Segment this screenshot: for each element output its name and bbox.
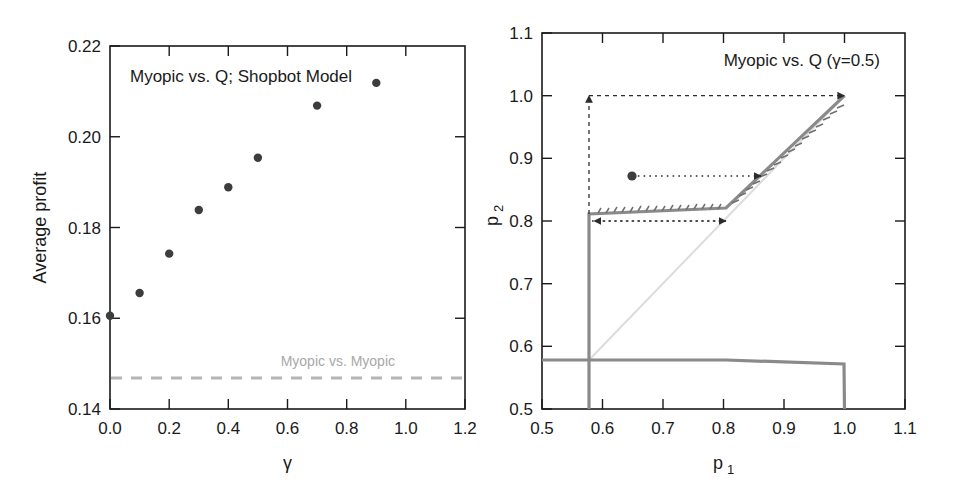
left-ytick-2: 0.18 bbox=[68, 219, 101, 238]
right-ytick-0: 0.5 bbox=[509, 400, 533, 419]
left-xtick-6: 1.2 bbox=[453, 419, 477, 438]
left-xtick-2: 0.4 bbox=[216, 419, 240, 438]
figure-container: 0.14 0.16 0.18 0.20 0.22 0.0 bbox=[0, 0, 959, 489]
right-y-axis-label-base: p bbox=[482, 216, 502, 226]
right-xtick-1: 0.6 bbox=[591, 419, 615, 438]
right-ytick-5: 1.0 bbox=[509, 87, 533, 106]
left-scatter-series bbox=[106, 79, 381, 320]
data-point bbox=[372, 79, 380, 87]
right-plot-title: Myopic vs. Q (γ=0.5) bbox=[724, 51, 880, 70]
data-point bbox=[313, 101, 321, 109]
right-ytick-2: 0.7 bbox=[509, 275, 533, 294]
left-ytick-3: 0.20 bbox=[68, 128, 101, 147]
initial-condition-point bbox=[627, 171, 636, 180]
left-ytick-1: 0.16 bbox=[68, 309, 101, 328]
left-xtick-1: 0.2 bbox=[157, 419, 181, 438]
right-ytick-6: 1.1 bbox=[509, 24, 533, 43]
data-point bbox=[195, 206, 203, 214]
left-ytick-0: 0.14 bbox=[68, 400, 101, 419]
right-xtick-2: 0.7 bbox=[651, 419, 675, 438]
right-xtick-6: 1.1 bbox=[893, 419, 917, 438]
right-xtick-0: 0.5 bbox=[530, 419, 554, 438]
right-x-axis-label-base: p bbox=[713, 453, 723, 473]
left-plot-svg: 0.14 0.16 0.18 0.20 0.22 0.0 bbox=[0, 0, 480, 489]
data-point bbox=[165, 249, 173, 257]
reaction-curve-player-1 bbox=[542, 360, 845, 409]
right-ytick-1: 0.6 bbox=[509, 337, 533, 356]
data-point bbox=[224, 183, 232, 191]
data-point bbox=[106, 312, 114, 320]
left-x-axis-label: γ bbox=[283, 453, 292, 473]
left-xtick-5: 1.0 bbox=[394, 419, 418, 438]
left-xtick-0: 0.0 bbox=[98, 419, 122, 438]
right-xtick-5: 1.0 bbox=[833, 419, 857, 438]
right-xtick-4: 0.9 bbox=[772, 419, 796, 438]
reaction-curve-arrow-markers bbox=[598, 105, 844, 213]
data-point bbox=[254, 154, 262, 162]
diagonal-reference-line bbox=[589, 96, 845, 360]
left-xtick-4: 0.8 bbox=[335, 419, 359, 438]
right-ytick-4: 0.9 bbox=[509, 149, 533, 168]
right-x-axis-label-sub: 1 bbox=[727, 462, 734, 477]
right-x-axis-label: p 1 bbox=[713, 453, 734, 477]
chart-panel-right: 0.5 0.6 0.7 0.8 0.9 1.0 1.1 bbox=[480, 0, 959, 489]
right-xtick-3: 0.8 bbox=[712, 419, 736, 438]
left-ytick-4: 0.22 bbox=[68, 37, 101, 56]
right-ytick-3: 0.8 bbox=[509, 212, 533, 231]
data-point bbox=[135, 289, 143, 297]
left-y-axis-label: Average profit bbox=[30, 172, 50, 284]
left-xtick-3: 0.6 bbox=[276, 419, 300, 438]
right-plot-svg: 0.5 0.6 0.7 0.8 0.9 1.0 1.1 bbox=[480, 0, 959, 489]
left-plot-title: Myopic vs. Q; Shopbot Model bbox=[130, 67, 352, 86]
chart-panel-left: 0.14 0.16 0.18 0.20 0.22 0.0 bbox=[0, 0, 480, 489]
right-y-axis-label: p 2 bbox=[482, 205, 506, 226]
right-y-axis-label-sub: 2 bbox=[491, 205, 506, 212]
myopic-vs-myopic-label: Myopic vs. Myopic bbox=[281, 353, 395, 369]
